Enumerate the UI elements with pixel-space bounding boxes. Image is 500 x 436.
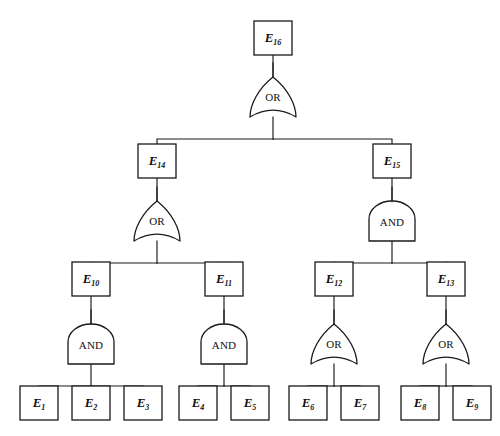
event-label-base: E: [82, 271, 92, 286]
event-label-subscript: 14: [157, 160, 165, 169]
event-label-subscript: 15: [392, 160, 400, 169]
connector-G16-to-E15: [273, 139, 392, 144]
gate-g12-or[interactable]: OR: [311, 310, 357, 364]
event-label-base: E: [325, 271, 335, 286]
event-label-subscript: 9: [474, 402, 478, 411]
event-label-base: E: [84, 395, 94, 410]
event-box-e9[interactable]: E9: [453, 386, 491, 420]
event-box-e14[interactable]: E14: [138, 144, 176, 178]
gate-layer: ORORANDANDANDOROR: [68, 63, 469, 364]
event-label-subscript: 4: [199, 402, 204, 411]
event-box-e4[interactable]: E4: [179, 386, 217, 420]
gate-g13-or[interactable]: OR: [423, 310, 469, 364]
event-box-e1[interactable]: E1: [20, 386, 58, 420]
event-box-e15[interactable]: E15: [373, 144, 411, 178]
gate-g14-or[interactable]: OR: [134, 187, 180, 241]
event-label-subscript: 11: [225, 278, 233, 287]
event-box-e7[interactable]: E7: [341, 386, 379, 420]
event-label-base: E: [191, 395, 201, 410]
gate-label: OR: [438, 338, 454, 350]
event-box-e13[interactable]: E13: [427, 262, 465, 296]
event-label-base: E: [215, 271, 225, 286]
gate-label: AND: [79, 339, 103, 351]
event-box-e8[interactable]: E8: [401, 386, 439, 420]
event-label-base: E: [148, 153, 158, 168]
event-label-subscript: 2: [92, 402, 97, 411]
event-label-base: E: [136, 395, 146, 410]
gate-g11-and[interactable]: AND: [201, 310, 247, 364]
event-label-subscript: 12: [334, 278, 342, 287]
event-label-base: E: [264, 30, 274, 45]
event-label-subscript: 6: [310, 402, 314, 411]
event-label-subscript: 1: [41, 402, 45, 411]
event-box-e2[interactable]: E2: [72, 386, 110, 420]
event-label-base: E: [243, 395, 253, 410]
event-label-subscript: 3: [144, 402, 149, 411]
event-box-e12[interactable]: E12: [315, 262, 353, 296]
fault-tree-canvas: ORORANDANDANDOROR E16E14E15E10E11E12E13E…: [0, 0, 500, 436]
event-label-base: E: [413, 395, 423, 410]
connector-G16-to-E14: [157, 139, 273, 144]
event-label-subscript: 10: [91, 278, 99, 287]
event-label-base: E: [353, 395, 363, 410]
gate-label: OR: [149, 215, 165, 227]
event-label-subscript: 13: [446, 278, 454, 287]
gate-g10-and[interactable]: AND: [68, 310, 114, 364]
event-box-e11[interactable]: E11: [205, 262, 243, 296]
event-label-subscript: 5: [252, 402, 256, 411]
event-label-base: E: [301, 395, 311, 410]
event-label-base: E: [465, 395, 475, 410]
event-label-subscript: 16: [273, 37, 281, 46]
event-label-base: E: [437, 271, 447, 286]
event-box-e5[interactable]: E5: [231, 386, 269, 420]
gate-g15-and[interactable]: AND: [369, 187, 415, 241]
gate-label: AND: [212, 339, 236, 351]
fault-tree-diagram: ORORANDANDANDOROR E16E14E15E10E11E12E13E…: [0, 0, 500, 436]
gate-label: OR: [326, 338, 342, 350]
gate-label: OR: [265, 91, 281, 103]
event-box-e6[interactable]: E6: [289, 386, 327, 420]
gate-g16-or[interactable]: OR: [250, 63, 296, 117]
event-label-subscript: 8: [422, 402, 426, 411]
event-label-base: E: [383, 153, 393, 168]
event-box-e16[interactable]: E16: [254, 21, 292, 55]
event-box-e3[interactable]: E3: [124, 386, 162, 420]
event-label-base: E: [32, 395, 42, 410]
gate-label: AND: [380, 216, 404, 228]
event-box-e10[interactable]: E10: [72, 262, 110, 296]
